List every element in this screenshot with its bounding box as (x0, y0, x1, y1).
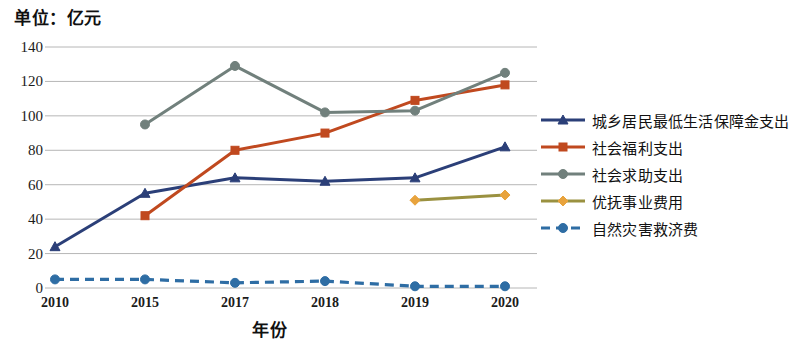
legend-item[interactable]: 城乡居民最低生活保障金支出 (540, 108, 793, 132)
legend-swatch-circle-icon (540, 219, 586, 237)
y-tick-label: 40 (3, 211, 43, 228)
legend-swatch-triangle-icon (540, 111, 586, 129)
plot-svg (0, 0, 540, 342)
y-tick-label: 120 (3, 73, 43, 90)
y-tick-label: 140 (3, 39, 43, 56)
chart-container: 单位：亿元 140120100806040200 201020152017201… (0, 0, 793, 342)
legend-swatch-circle-icon (540, 165, 586, 183)
legend-swatch-square-icon (540, 138, 586, 156)
legend-label: 自然灾害救济费 (592, 218, 698, 239)
x-axis-title: 年份 (0, 316, 540, 341)
legend-item[interactable]: 社会求助支出 (540, 162, 793, 186)
series-3 (410, 190, 510, 205)
x-tick-label: 2018 (290, 295, 360, 311)
legend-label: 城乡居民最低生活保障金支出 (592, 110, 790, 131)
y-tick-label: 80 (3, 142, 43, 159)
legend-swatch-diamond-icon (540, 192, 586, 210)
plot-area: 140120100806040200 201020152017201820192… (0, 0, 540, 342)
gridlines (45, 47, 537, 288)
series-2 (141, 61, 510, 129)
y-tick-label: 0 (3, 280, 43, 297)
x-tick-label: 2019 (380, 295, 450, 311)
x-tick-label: 2010 (20, 295, 90, 311)
legend-label: 优抚事业费用 (592, 191, 683, 212)
x-tick-label: 2017 (200, 295, 270, 311)
series-0 (50, 142, 510, 251)
legend-item[interactable]: 自然灾害救济费 (540, 216, 793, 240)
legend-label: 社会求助支出 (592, 164, 683, 185)
y-tick-label: 100 (3, 107, 43, 124)
y-tick-label: 60 (3, 176, 43, 193)
legend-item[interactable]: 社会福利支出 (540, 135, 793, 159)
y-tick-label: 20 (3, 245, 43, 262)
legend-label: 社会福利支出 (592, 137, 683, 158)
chart-legend: 城乡居民最低生活保障金支出社会福利支出社会求助支出优抚事业费用自然灾害救济费 (540, 108, 793, 243)
legend-item[interactable]: 优抚事业费用 (540, 189, 793, 213)
x-tick-label: 2015 (110, 295, 180, 311)
x-tick-label: 2020 (470, 295, 540, 311)
